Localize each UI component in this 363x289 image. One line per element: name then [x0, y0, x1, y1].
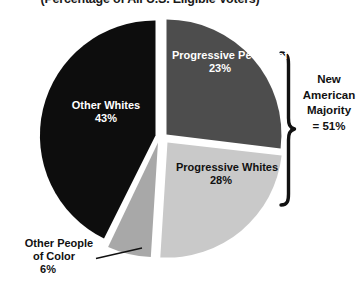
annotation-total: = 51% — [296, 119, 362, 135]
slice-label-line-1: Progressive — [176, 161, 239, 173]
slice-label-line-1: Other Whites — [72, 99, 140, 111]
annotation-line-1: New — [296, 72, 362, 88]
pie-slice-progressive-whites[interactable] — [160, 143, 281, 258]
curly-brace-icon — [281, 53, 295, 205]
annotation-new-american-majority: New American Majority = 51% — [296, 72, 362, 134]
slice-label-other-whites: Other Whites 43% — [56, 99, 156, 125]
pie-slice-progressive-people-of-color[interactable] — [167, 20, 282, 149]
slice-label-line-2: People of Color — [238, 49, 319, 61]
slice-label-progressive-whites: Progressive Whites 28% — [176, 161, 266, 187]
annotation-line-3: Majority — [296, 103, 362, 119]
slice-label-line-1: Other People — [25, 237, 93, 249]
slice-value-progressive-whites: 28% — [176, 174, 266, 187]
slice-label-line-2: Whites — [242, 161, 278, 173]
pie-chart-figure: (Percentage of All U.S. Eligible Voters)… — [0, 0, 363, 289]
slice-value-other-whites: 43% — [56, 112, 156, 125]
slice-value-other-people-of-color: 6% — [4, 263, 114, 276]
slice-label-progressive-people-of-color: Progressive People of Color 23% — [172, 49, 268, 75]
slice-label-line-2: of Color — [4, 250, 114, 263]
annotation-line-2: American — [296, 88, 362, 104]
slice-value-progressive-people-of-color: 23% — [172, 62, 268, 75]
slice-label-line-1: Progressive — [172, 49, 235, 61]
slice-label-other-people-of-color: Other People of Color 6% — [4, 237, 114, 277]
